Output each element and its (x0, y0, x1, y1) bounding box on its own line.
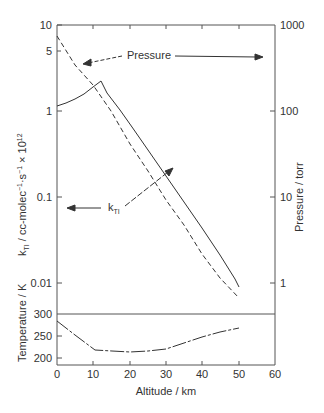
pressure-curve (57, 36, 239, 298)
left-tick-1: 1 (46, 105, 52, 117)
x-tick-30: 30 (160, 368, 172, 380)
x-tick-60: 60 (269, 368, 281, 380)
left-tick-0.1: 0.1 (37, 191, 52, 203)
k-ti-arrow-right (125, 168, 173, 206)
left-tick-0.01: 0.01 (31, 277, 52, 289)
temperature-curve (57, 321, 239, 352)
pressure-arrow-left (83, 56, 122, 66)
y-axis-label-k: kTI / cc-molec−1·s−1 × 1012 (16, 133, 30, 256)
left-ticks (57, 25, 62, 358)
chart-svg: 10 5 1 0.1 0.01 300 250 200 1000 100 10 … (0, 0, 324, 413)
k-ti-curve (57, 81, 239, 287)
right-tick-1: 1 (280, 277, 286, 289)
temp-tick-250: 250 (34, 330, 52, 342)
x-tick-0: 0 (54, 368, 60, 380)
left-tick-10: 10 (40, 19, 52, 31)
temp-tick-200: 200 (34, 352, 52, 364)
x-tick-10: 10 (87, 368, 99, 380)
annotation-k-ti: kTI (108, 201, 120, 215)
x-tick-20: 20 (124, 368, 136, 380)
top-ticks (93, 25, 239, 29)
y-axis-label-pressure: Pressure / torr (293, 162, 305, 232)
x-axis-label: Altitude / km (136, 385, 197, 397)
right-tick-1000: 1000 (280, 19, 304, 31)
right-tick-100: 100 (280, 105, 298, 117)
axes-frame (57, 25, 275, 365)
annotation-pressure: Pressure (127, 49, 171, 61)
temp-tick-300: 300 (34, 308, 52, 320)
x-tick-50: 50 (233, 368, 245, 380)
left-tick-5: 5 (46, 45, 52, 57)
k-ti-arrow-left (67, 205, 101, 211)
bottom-ticks (93, 361, 239, 365)
right-tick-10: 10 (280, 191, 292, 203)
y-axis-label-temperature: Temperature / K (16, 283, 28, 362)
right-ticks (270, 111, 275, 283)
x-tick-40: 40 (196, 368, 208, 380)
pressure-arrow-right (175, 54, 263, 60)
chart-figure: 10 5 1 0.1 0.01 300 250 200 1000 100 10 … (0, 0, 324, 413)
